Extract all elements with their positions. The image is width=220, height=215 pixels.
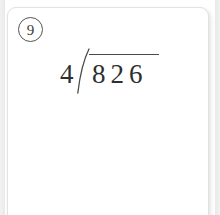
- long-division-expression: 4 826: [60, 48, 148, 94]
- problem-number-badge: 9: [18, 17, 43, 42]
- student-work-area[interactable]: [8, 108, 208, 215]
- divisor-value: 4: [60, 48, 74, 93]
- page-gutter-left: [0, 0, 5, 215]
- dividend-value: 826: [89, 59, 148, 89]
- page-gutter-right: [215, 0, 220, 215]
- problem-card: 9 4 826: [7, 7, 209, 215]
- vinculum-bar: [89, 54, 159, 55]
- worksheet-canvas: 9 4 826: [0, 0, 220, 215]
- dividend-group: 826: [89, 48, 148, 93]
